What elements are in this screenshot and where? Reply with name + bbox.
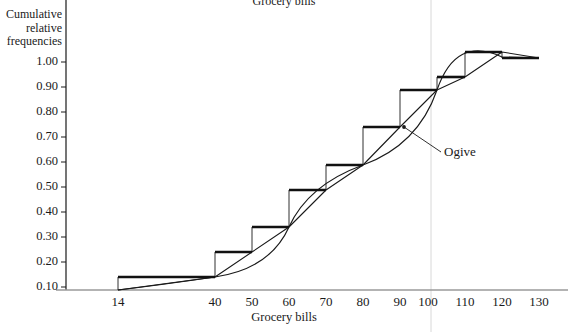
x-tick-label-50: 50 — [232, 294, 272, 310]
y-tick-label-0_80: 0.80 — [2, 104, 58, 119]
y-tick-label-0_60: 0.60 — [2, 154, 58, 169]
y-tick-label-0_20: 0.20 — [2, 254, 58, 269]
y-tick-label-0_30: 0.30 — [2, 229, 58, 244]
x-axis-title: Grocery bills — [0, 310, 568, 325]
ogive-annotation-leader — [402, 125, 441, 152]
ogive-curve — [118, 52, 539, 290]
y-tick-label-0_90: 0.90 — [2, 79, 58, 94]
ogive-annotation-label: Ogive — [444, 144, 476, 160]
y-tick-label-0_50: 0.50 — [2, 179, 58, 194]
y-axis-ticks — [61, 62, 66, 287]
ogive-curve-smooth — [118, 51, 539, 290]
y-tick-label-0_10: 0.10 — [2, 279, 58, 294]
chart-canvas — [0, 0, 568, 332]
x-tick-label-40: 40 — [195, 294, 235, 310]
chart-top-title: Grocery bills — [0, 0, 568, 9]
y-tick-label-0_40: 0.40 — [2, 204, 58, 219]
x-tick-label-14: 14 — [98, 294, 138, 310]
x-tick-label-60: 60 — [269, 294, 309, 310]
y-axis-title-line-1: Cumulative — [0, 8, 62, 22]
y-axis-title: Cumulative relative frequencies — [0, 8, 62, 49]
ogive-chart-figure: Grocery bills Cumulative relative freque… — [0, 0, 568, 332]
x-tick-label-110: 110 — [445, 294, 485, 310]
step-risers — [118, 52, 502, 290]
step-treads — [118, 52, 539, 277]
x-tick-label-70: 70 — [306, 294, 346, 310]
y-axis-title-line-2: relative — [0, 22, 62, 36]
x-tick-label-100: 100 — [408, 294, 448, 310]
y-tick-label-1_00: 1.00 — [2, 54, 58, 69]
x-tick-label-120: 120 — [482, 294, 522, 310]
x-tick-label-130: 130 — [519, 294, 559, 310]
x-tick-label-80: 80 — [343, 294, 383, 310]
y-tick-label-0_70: 0.70 — [2, 129, 58, 144]
y-axis-title-line-3: frequencies — [0, 35, 62, 49]
